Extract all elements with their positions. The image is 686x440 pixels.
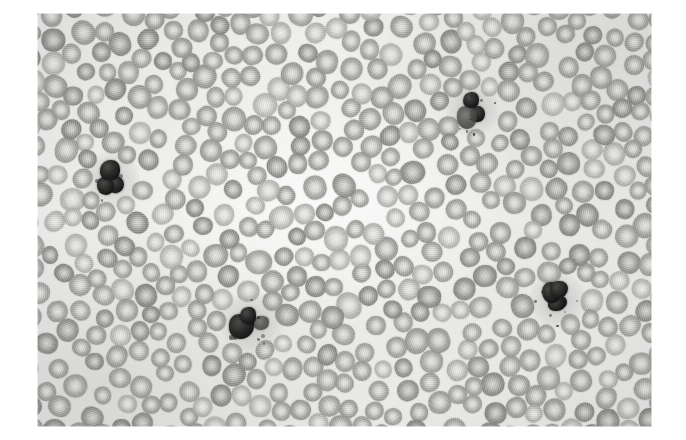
chromatin-speck [556, 325, 558, 327]
leukocyte-layer [37, 13, 652, 427]
chromatin-speck [114, 170, 116, 172]
chromatin-speck [257, 316, 260, 319]
leukocyte [445, 83, 498, 136]
chromatin-speck [470, 95, 473, 98]
chromatin-speck [250, 299, 253, 302]
chromatin-speck [233, 336, 237, 340]
chromatin-speck [101, 199, 104, 202]
leukocyte [220, 291, 285, 356]
chromatin-speck [95, 179, 99, 183]
chromatin-speck [119, 174, 123, 178]
chromatin-speck [480, 99, 483, 102]
figure-caption [37, 430, 652, 440]
photomicrograph-figure [0, 0, 686, 440]
chromatin-speck [534, 300, 537, 303]
leukocyte-nucleus-lobe [240, 307, 256, 325]
leukocyte [83, 151, 140, 208]
leukocyte [529, 272, 586, 329]
chromatin-speck [261, 334, 265, 338]
leukocyte-nucleus-lobe [100, 160, 119, 179]
micrograph-plate [37, 13, 652, 427]
chromatin-speck [257, 338, 260, 341]
chromatin-speck [551, 290, 555, 294]
chromatin-speck [545, 298, 547, 300]
chromatin-speck [110, 171, 113, 174]
chromatin-speck [473, 133, 475, 135]
